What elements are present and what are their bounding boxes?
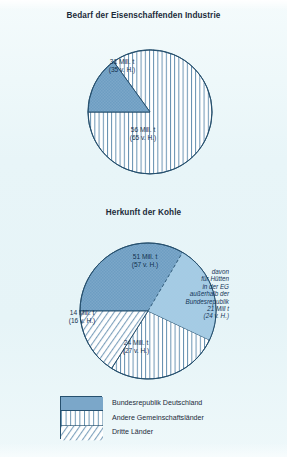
legend-swatch-bundesrepublik	[61, 397, 103, 411]
figure-page: Bedarf der Eisenschaffenden Industrie	[0, 0, 287, 457]
pie-chart-2	[78, 241, 218, 381]
legend-swatch-andere-gemeinschaftslaender	[61, 411, 103, 425]
legend-swatch-box	[60, 396, 102, 439]
pie-chart-1	[86, 48, 214, 176]
legend-label-dritte-laender: Dritte Länder	[112, 428, 153, 436]
legend-label-andere-gemeinschaftslaender: Andere Gemeinschaftsländer	[112, 414, 204, 422]
legend-label-bundesrepublik: Bundesrepublik Deutschland	[112, 399, 202, 407]
legend-swatch-dritte-laender	[61, 426, 103, 440]
chart-2-title: Herkunft der Kohle	[0, 208, 287, 217]
chart-1-title: Bedarf der Eisenschaffenden Industrie	[0, 11, 287, 20]
